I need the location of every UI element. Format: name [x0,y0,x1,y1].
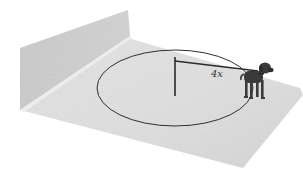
leash-length-label: 4x [211,68,223,79]
diagram-scene [0,0,303,172]
